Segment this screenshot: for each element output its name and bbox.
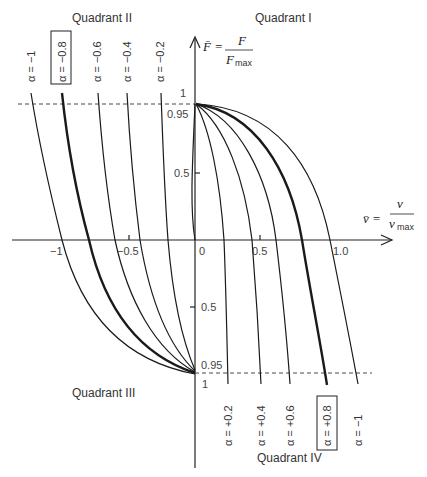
alpha-label: α = +0.2: [222, 405, 234, 446]
svg-text:v̄ =: v̄ =: [363, 211, 381, 226]
alpha-label-boxed: α = +0.8: [321, 405, 333, 446]
alpha-label-boxed: α = −0.8: [56, 41, 68, 82]
svg-text:max: max: [397, 222, 415, 232]
svg-text:F: F: [225, 52, 235, 67]
alpha-label: α = −0.6: [91, 41, 103, 82]
alpha-label: α = −1: [25, 51, 37, 82]
x-tick-05: 0.5: [252, 245, 267, 257]
x-tick-1: 1.0: [333, 245, 348, 257]
x-tick-0: 0: [199, 245, 205, 257]
y-tick-05-bottom: 0.5: [201, 301, 216, 313]
y-axis-label: F̄ = F F max: [202, 33, 253, 68]
alpha-label: α = −0.4: [121, 41, 133, 82]
alpha-label: α = +0.6: [284, 405, 296, 446]
y-tick-095-top: 0.95: [167, 108, 188, 120]
svg-text:v: v: [389, 216, 395, 231]
alpha-label: α = +0.4: [255, 405, 267, 446]
x-axis: [12, 235, 392, 245]
x-tick-neg05: −0.5: [117, 245, 139, 257]
svg-text:F̄ =: F̄ =: [202, 39, 223, 54]
y-tick-1-top: 1: [180, 87, 186, 99]
alpha-labels-bottom: α = +0.2 α = +0.4 α = +0.6 α = +0.8 α = …: [222, 396, 364, 450]
alpha-label: α = −0.2: [154, 41, 166, 82]
quadrant-i-label: Quadrant I: [255, 11, 312, 25]
x-axis-label: v̄ = v v max: [363, 196, 415, 232]
svg-text:v: v: [397, 196, 403, 211]
quadrant-iii-label: Quadrant III: [72, 386, 135, 400]
svg-text:max: max: [235, 58, 253, 68]
quadrant-ii-iii-curves: [31, 93, 195, 374]
alpha-labels-top: α = −1 α = −0.8 α = −0.6 α = −0.4 α = −0…: [25, 31, 166, 84]
quadrant-iv-label: Quadrant IV: [257, 451, 322, 465]
x-tick-neg1: −1: [50, 245, 63, 257]
y-tick-095-bottom: 0.95: [201, 359, 222, 371]
svg-text:F: F: [237, 33, 247, 48]
alpha-label: α = −1: [352, 415, 364, 446]
quadrant-ii-label: Quadrant II: [72, 11, 132, 25]
y-tick-1-bottom: 1: [202, 378, 208, 390]
force-velocity-diagram: Quadrant II Quadrant I Quadrant III Quad…: [0, 0, 427, 477]
y-tick-05-top: 0.5: [174, 167, 189, 179]
